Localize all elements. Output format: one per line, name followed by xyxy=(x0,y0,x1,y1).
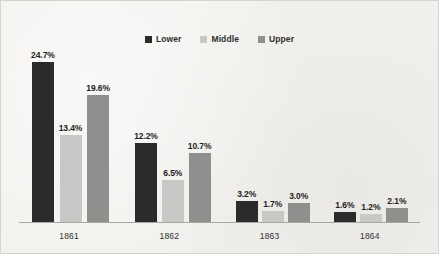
x-tick-1863: 1863 xyxy=(220,231,320,241)
legend-item-upper[interactable]: Upper xyxy=(258,34,294,44)
bar-lower-1861[interactable] xyxy=(32,62,54,222)
legend-swatch-lower xyxy=(145,36,152,43)
x-tick-1861: 1861 xyxy=(19,231,119,241)
bar-value-label: 12.2% xyxy=(134,131,158,141)
bar-middle-1863[interactable] xyxy=(262,211,284,222)
bar-upper-1862[interactable] xyxy=(189,153,211,222)
bar-value-label: 10.7% xyxy=(188,141,212,151)
x-axis-line xyxy=(19,222,420,223)
bar-value-label: 19.6% xyxy=(86,83,110,93)
legend-label-lower: Lower xyxy=(156,34,182,44)
bar-value-label: 1.7% xyxy=(263,199,282,209)
bar-chart-figure: Lower Middle Upper 24.7%13.4%19.6%12.2%6… xyxy=(0,0,439,254)
bar-middle-1861[interactable] xyxy=(60,135,82,222)
legend-item-lower[interactable]: Lower xyxy=(145,34,182,44)
bar-upper-1861[interactable] xyxy=(87,95,109,222)
bar-value-label: 13.4% xyxy=(59,123,83,133)
bar-middle-1864[interactable] xyxy=(360,214,382,222)
bar-lower-1863[interactable] xyxy=(236,201,258,222)
bar-value-label: 2.1% xyxy=(387,196,406,206)
bar-upper-1864[interactable] xyxy=(386,208,408,222)
chart-legend: Lower Middle Upper xyxy=(1,34,438,44)
legend-swatch-upper xyxy=(258,36,265,43)
bar-value-label: 3.0% xyxy=(289,191,308,201)
legend-item-middle[interactable]: Middle xyxy=(200,34,239,44)
bar-upper-1863[interactable] xyxy=(288,203,310,222)
x-tick-1864: 1864 xyxy=(320,231,420,241)
bar-value-label: 24.7% xyxy=(31,50,55,60)
legend-swatch-middle xyxy=(200,36,207,43)
x-tick-1862: 1862 xyxy=(119,231,219,241)
bar-value-label: 6.5% xyxy=(163,168,182,178)
bar-value-label: 1.2% xyxy=(361,202,380,212)
bar-value-label: 3.2% xyxy=(237,189,256,199)
legend-label-upper: Upper xyxy=(269,34,294,44)
bar-lower-1862[interactable] xyxy=(135,143,157,222)
bar-value-label: 1.6% xyxy=(335,200,354,210)
bar-lower-1864[interactable] xyxy=(334,212,356,222)
bar-middle-1862[interactable] xyxy=(162,180,184,222)
legend-label-middle: Middle xyxy=(211,34,239,44)
x-axis-tick-labels: 1861186218631864 xyxy=(19,231,420,241)
